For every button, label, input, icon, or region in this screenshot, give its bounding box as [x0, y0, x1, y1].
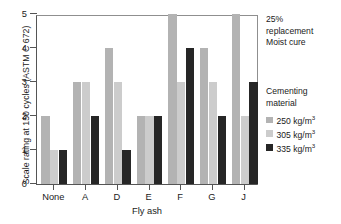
x-axis-category-label: A: [82, 191, 88, 203]
x-axis-title: Fly ash: [36, 206, 258, 216]
bar-group: [105, 16, 131, 184]
x-axis-tick: [180, 185, 181, 190]
annotation-line: Moist cure: [266, 37, 341, 49]
bar: [82, 82, 90, 184]
bar: [59, 150, 67, 184]
bar: [137, 116, 145, 184]
bar-group: [73, 16, 99, 184]
legend-label-exponent: 3: [312, 114, 315, 121]
bar-group: [168, 16, 194, 184]
bar-group: [232, 16, 258, 184]
legend-item: 335 kg/m3: [266, 142, 341, 154]
bar-group: [41, 16, 67, 184]
legend-item: 250 kg/m3: [266, 114, 341, 126]
bar: [91, 116, 99, 184]
y-axis-tick-label: 0: [22, 178, 27, 190]
chart-legend: Cementingmaterial 250 kg/m3305 kg/m3335 …: [266, 86, 341, 155]
bar: [168, 14, 176, 184]
plot-area: 012345: [36, 15, 258, 185]
x-axis-tick: [212, 185, 213, 190]
x-axis-tick: [244, 185, 245, 190]
bar-group: [200, 16, 226, 184]
x-axis-category-label: E: [145, 191, 151, 203]
annotation-line: replacement: [266, 26, 341, 38]
legend-swatch-icon: [266, 117, 273, 124]
bar: [200, 48, 208, 184]
annotation-line: 25%: [266, 14, 341, 26]
y-axis-tick-label: 5: [22, 8, 27, 20]
bar: [122, 150, 130, 184]
bar: [241, 116, 249, 184]
bar: [105, 48, 113, 184]
x-axis: NoneADEFGJ: [36, 185, 258, 223]
x-axis-category-label: J: [241, 191, 246, 203]
legend-title-line: Cementing: [266, 86, 341, 98]
y-axis-tick: 2: [30, 115, 37, 116]
y-axis-tick: 0: [30, 183, 37, 184]
y-axis-tick-label: 2: [22, 110, 27, 122]
bar: [154, 116, 162, 184]
bar: [114, 82, 122, 184]
x-axis-tick: [149, 185, 150, 190]
bar: [218, 116, 226, 184]
bar: [249, 82, 257, 184]
chart-annotation: 25%replacementMoist cure: [266, 14, 341, 49]
x-axis-tick: [117, 185, 118, 190]
legend-label-exponent: 3: [312, 128, 315, 135]
x-axis-category-label: D: [113, 191, 120, 203]
y-axis-tick: 3: [30, 81, 37, 82]
x-axis-category-label: F: [177, 191, 183, 203]
y-axis-tick-label: 3: [22, 76, 27, 88]
x-axis-category-label: None: [42, 191, 64, 203]
bar: [232, 14, 240, 184]
y-axis-tick: 4: [30, 47, 37, 48]
bar: [186, 48, 194, 184]
legend-swatch-icon: [266, 130, 273, 137]
legend-items: 250 kg/m3305 kg/m3335 kg/m3: [266, 114, 341, 153]
legend-title-line: material: [266, 98, 341, 110]
bar-chart-figure: Scale rating at 150 cycles (ASTM C 672) …: [0, 0, 341, 224]
bar: [209, 82, 217, 184]
x-axis-tick: [85, 185, 86, 190]
y-axis-tick-label: 4: [22, 42, 27, 54]
legend-label-exponent: 3: [312, 142, 315, 149]
bar: [41, 116, 49, 184]
y-axis-tick: 5: [30, 13, 37, 14]
legend-item: 305 kg/m3: [266, 128, 341, 140]
bar: [177, 82, 185, 184]
legend-swatch-icon: [266, 144, 273, 151]
legend-title: Cementingmaterial: [266, 86, 341, 109]
x-axis-category-label: G: [208, 191, 215, 203]
bar: [50, 150, 58, 184]
x-axis-tick: [53, 185, 54, 190]
legend-item-label: 335 kg/m3: [277, 140, 316, 155]
bar: [145, 116, 153, 184]
y-axis-tick: 1: [30, 149, 37, 150]
y-axis-tick-label: 1: [22, 144, 27, 156]
bar-group: [137, 16, 163, 184]
bar: [73, 82, 81, 184]
